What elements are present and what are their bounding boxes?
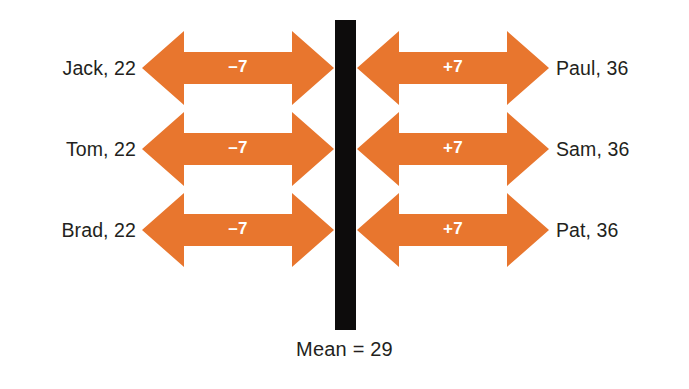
right-person-label: Paul, 36 [552,29,689,107]
right-person-label: Pat, 36 [552,191,689,269]
deviation-row: Tom, 22 –7 +7 Sam, 36 [0,110,689,188]
left-person-label: Jack, 22 [0,29,140,107]
right-double-arrow-icon [357,191,549,269]
left-double-arrow-icon [142,110,334,188]
deviation-row: Jack, 22 –7 +7 Paul, 36 [0,29,689,107]
mean-caption: Mean = 29 [0,338,689,361]
right-person-label: Sam, 36 [552,110,689,188]
left-double-arrow-icon [142,29,334,107]
right-double-arrow-icon [357,110,549,188]
left-person-label: Tom, 22 [0,110,140,188]
left-person-label: Brad, 22 [0,191,140,269]
right-double-arrow-icon [357,29,549,107]
deviation-row: Brad, 22 –7 +7 Pat, 36 [0,191,689,269]
left-double-arrow-icon [142,191,334,269]
deviations-diagram: Jack, 22 –7 +7 Paul, 36 Tom, 22 –7 [0,0,689,389]
